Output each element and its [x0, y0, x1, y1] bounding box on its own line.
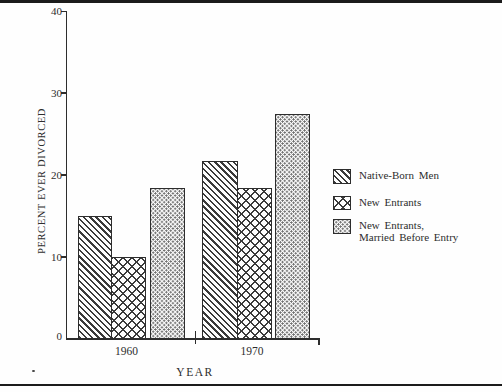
y-tick-label-40: 40 [36, 5, 62, 17]
legend: Native-Born Men New Entrants New Entrant… [333, 169, 458, 243]
y-tick-label-10: 10 [36, 251, 62, 263]
legend-item-new-entrants: New Entrants [333, 196, 458, 211]
x-axis-end-tick [318, 338, 320, 345]
x-axis-title: YEAR [145, 366, 245, 378]
x-category-1960: 1960 [97, 345, 157, 357]
y-axis-title: PERCENT EVER DIVORCED [36, 108, 47, 254]
x-axis-mid-tick [195, 331, 196, 344]
x-category-1970: 1970 [222, 345, 282, 357]
top-rule [0, 0, 502, 3]
dotted-swatch-icon [333, 219, 351, 234]
legend-label: New Entrants [359, 196, 421, 209]
y-tick-label-20: 20 [36, 169, 62, 181]
bar-native-born-men-1970 [202, 161, 238, 339]
bar-new-entrants-1970 [237, 188, 273, 339]
bar-married-before-entry-1970 [275, 114, 311, 340]
y-tick-label-30: 30 [36, 87, 62, 99]
diagonal-hatch-swatch-icon [333, 169, 351, 184]
bar-native-born-men-1960 [78, 216, 112, 339]
bottom-rule [0, 384, 502, 386]
stray-mark [32, 370, 35, 372]
bar-married-before-entry-1960 [150, 188, 185, 339]
figure: PERCENT EVER DIVORCED 40 30 20 10 0 1960… [0, 0, 502, 392]
crosshatch-swatch-icon [333, 196, 351, 211]
bar-new-entrants-1960 [111, 257, 147, 339]
legend-item-native-born-men: Native-Born Men [333, 169, 458, 184]
legend-label: New Entrants, Married Before Entry [359, 219, 458, 243]
legend-item-married-before-entry: New Entrants, Married Before Entry [333, 219, 458, 243]
y-tick-label-0: 0 [36, 330, 62, 342]
legend-label: Native-Born Men [359, 169, 439, 182]
